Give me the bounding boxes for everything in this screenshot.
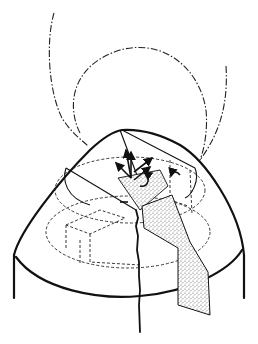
technical-drawing (0, 0, 258, 344)
crack-line (136, 210, 140, 332)
cylinder-base (14, 250, 244, 298)
dashdot-circle (73, 47, 206, 160)
